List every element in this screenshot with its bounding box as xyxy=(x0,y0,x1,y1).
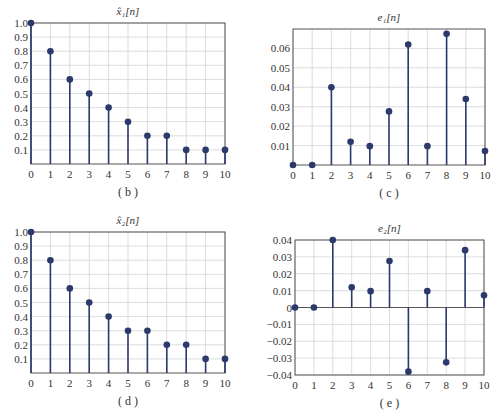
stem-marker xyxy=(424,143,431,150)
svg-text:10: 10 xyxy=(480,169,492,181)
svg-text:0.02: 0.02 xyxy=(273,268,292,280)
svg-text:3: 3 xyxy=(86,168,92,180)
chart-e: −0.04−0.03−0.02−0.0100.010.020.030.04012… xyxy=(250,200,495,410)
stem-marker xyxy=(367,288,374,295)
svg-text:3: 3 xyxy=(349,379,355,391)
svg-text:0.02: 0.02 xyxy=(271,120,290,132)
chart-c: 0.010.020.030.040.050.06012345678910e₁[n… xyxy=(250,0,495,200)
x-tick-labels: 012345678910 xyxy=(290,169,491,181)
stem-marker xyxy=(183,342,190,349)
x-tick-labels: 012345678910 xyxy=(292,379,490,391)
svg-text:2: 2 xyxy=(67,168,73,180)
stem-marker xyxy=(311,304,318,311)
svg-text:8: 8 xyxy=(183,168,189,180)
svg-text:0.4: 0.4 xyxy=(14,102,28,114)
stem-marker xyxy=(86,90,93,97)
svg-text:0.5: 0.5 xyxy=(14,297,28,309)
svg-text:3: 3 xyxy=(86,377,92,389)
svg-text:−0.02: −0.02 xyxy=(267,335,292,347)
chart-b-svg: 0.10.20.30.40.50.60.70.80.91.00123456789… xyxy=(0,0,250,200)
stem-marker xyxy=(443,359,450,366)
x-tick-labels: 012345678910 xyxy=(28,377,231,389)
stem-marker xyxy=(47,48,54,55)
svg-text:0.6: 0.6 xyxy=(14,73,28,85)
svg-text:0.3: 0.3 xyxy=(14,325,28,337)
stem-marker xyxy=(105,104,112,111)
svg-text:1: 1 xyxy=(48,168,54,180)
svg-text:8: 8 xyxy=(183,377,189,389)
stem-marker xyxy=(405,368,412,375)
svg-text:0: 0 xyxy=(28,377,34,389)
svg-text:6: 6 xyxy=(145,168,151,180)
svg-text:4: 4 xyxy=(368,379,374,391)
svg-text:7: 7 xyxy=(164,168,170,180)
svg-text:10: 10 xyxy=(220,168,232,180)
svg-text:0: 0 xyxy=(292,379,298,391)
svg-text:1.0: 1.0 xyxy=(14,226,28,238)
chart-d-svg: 0.10.20.30.40.50.60.70.80.91.00123456789… xyxy=(0,200,250,410)
svg-text:0.3: 0.3 xyxy=(14,116,28,128)
svg-text:−0.03: −0.03 xyxy=(267,352,293,364)
stem-marker xyxy=(463,96,470,103)
svg-text:1: 1 xyxy=(309,169,315,181)
svg-text:0.8: 0.8 xyxy=(14,254,28,266)
stem-marker xyxy=(164,342,171,349)
stem-marker xyxy=(405,41,412,48)
x-tick-labels: 012345678910 xyxy=(28,168,231,180)
stem-marker xyxy=(462,247,469,254)
y-tick-labels: −0.04−0.03−0.02−0.0100.010.020.030.04 xyxy=(267,234,293,381)
stem-marker xyxy=(67,76,74,83)
stem-marker xyxy=(105,313,112,320)
svg-text:6: 6 xyxy=(406,379,412,391)
svg-text:9: 9 xyxy=(463,169,469,181)
chart-caption: ( d ) xyxy=(118,394,138,408)
y-tick-labels: 0.10.20.30.40.50.60.70.80.91.0 xyxy=(14,226,28,365)
svg-text:7: 7 xyxy=(425,169,431,181)
svg-text:0.06: 0.06 xyxy=(271,42,291,54)
svg-text:2: 2 xyxy=(329,169,335,181)
stem-marker xyxy=(424,288,431,295)
stem-marker xyxy=(183,147,190,154)
stem-marker xyxy=(348,284,355,291)
stem-marker xyxy=(144,133,151,140)
svg-text:5: 5 xyxy=(386,169,392,181)
stem-marker xyxy=(222,356,229,363)
stem-marker xyxy=(202,356,209,363)
stem-marker xyxy=(28,229,35,236)
svg-text:9: 9 xyxy=(203,377,209,389)
svg-text:0.1: 0.1 xyxy=(14,144,28,156)
svg-text:0.8: 0.8 xyxy=(14,45,28,57)
chart-caption: ( e ) xyxy=(380,396,399,410)
stem-marker xyxy=(328,84,335,91)
svg-text:8: 8 xyxy=(444,169,450,181)
svg-text:9: 9 xyxy=(203,168,209,180)
svg-text:6: 6 xyxy=(145,377,151,389)
svg-text:0.01: 0.01 xyxy=(271,140,290,152)
svg-text:9: 9 xyxy=(462,379,468,391)
stem-marker xyxy=(202,147,209,154)
svg-text:0.2: 0.2 xyxy=(14,339,28,351)
svg-text:0.01: 0.01 xyxy=(273,285,292,297)
chart-title: x̂₂[n] xyxy=(116,214,140,226)
stem-marker xyxy=(67,285,74,292)
chart-title: e₁[n] xyxy=(378,11,401,23)
stem-marker xyxy=(164,133,171,140)
svg-text:0.4: 0.4 xyxy=(14,311,28,323)
svg-text:1: 1 xyxy=(311,379,317,391)
svg-text:0.2: 0.2 xyxy=(14,130,28,142)
stem-marker xyxy=(386,108,393,115)
svg-text:0: 0 xyxy=(28,168,34,180)
stem-marker xyxy=(367,143,374,150)
svg-text:4: 4 xyxy=(367,169,373,181)
chart-c-svg: 0.010.020.030.040.050.06012345678910e₁[n… xyxy=(250,0,495,200)
svg-text:2: 2 xyxy=(330,379,336,391)
svg-text:5: 5 xyxy=(387,379,393,391)
svg-text:0.9: 0.9 xyxy=(14,31,28,43)
stem-marker xyxy=(330,237,337,244)
stem-marker xyxy=(386,258,393,265)
svg-text:0.7: 0.7 xyxy=(14,59,28,71)
svg-text:−0.04: −0.04 xyxy=(267,369,293,381)
svg-text:0.05: 0.05 xyxy=(271,62,291,74)
svg-text:0.1: 0.1 xyxy=(14,353,28,365)
svg-text:2: 2 xyxy=(67,377,73,389)
